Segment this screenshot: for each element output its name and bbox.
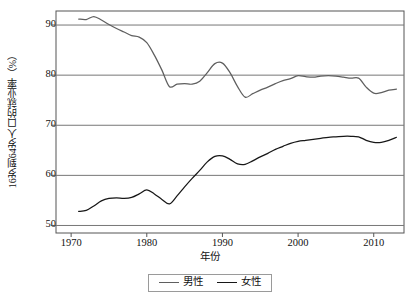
chart-legend: 男性女性 <box>148 274 272 292</box>
chart-figure: 16岁到64岁人口的就业率（%） 5060708090 197019801990… <box>0 0 419 302</box>
y-axis-label: 16岁到64岁人口的就业率（%） <box>8 50 18 188</box>
x-axis-label: 年份 <box>0 252 419 263</box>
legend-label: 女性 <box>241 277 261 288</box>
series-line-男性 <box>79 17 397 98</box>
y-tick-label: 90 <box>34 19 56 30</box>
y-axis-label-container: 16岁到64岁人口的就业率（%） <box>0 0 26 238</box>
series-line-女性 <box>79 136 397 211</box>
data-series-lines <box>79 17 397 212</box>
y-tick-label: 60 <box>34 169 56 180</box>
x-tick-label: 1970 <box>51 238 91 249</box>
y-tick-label: 50 <box>34 219 56 230</box>
x-tick-label: 1990 <box>202 238 242 249</box>
y-tick-label: 80 <box>34 69 56 80</box>
legend-label: 男性 <box>183 277 203 288</box>
x-tick-label: 2000 <box>278 238 318 249</box>
x-tick-label: 2010 <box>354 238 394 249</box>
y-axis-tick-labels: 5060708090 <box>26 0 56 240</box>
legend-item[interactable]: 男性 <box>159 277 203 288</box>
x-axis-tick-labels: 19701980199020002010 <box>0 238 419 252</box>
y-tick-label: 70 <box>34 119 56 130</box>
legend-line-swatch-icon <box>159 282 179 283</box>
x-tick-label: 1980 <box>127 238 167 249</box>
gridlines <box>56 25 404 225</box>
legend-item[interactable]: 女性 <box>217 277 261 288</box>
plot-frame <box>56 11 404 233</box>
legend-line-swatch-icon <box>217 282 237 283</box>
